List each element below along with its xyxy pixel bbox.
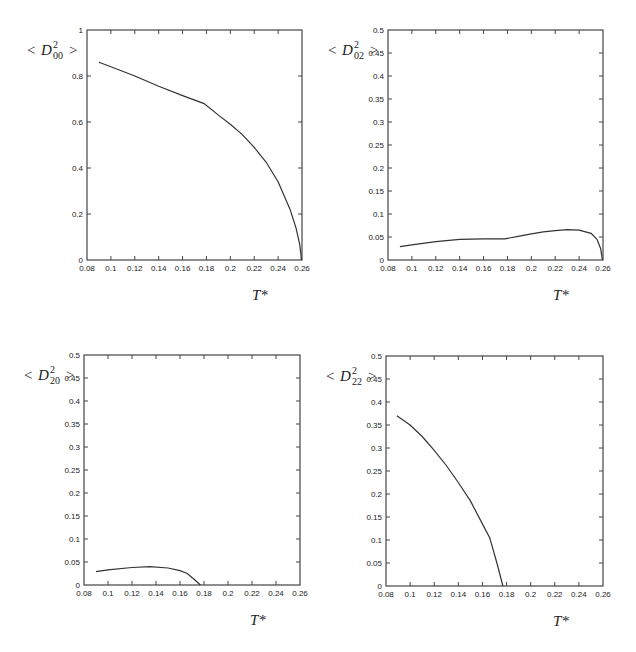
x-tick-label: 0.14 [148,589,164,598]
y-tick-label: 0.4 [69,397,81,406]
y-tick-label: 0.05 [368,233,384,242]
x-tick-label: 0.26 [294,264,310,273]
x-tick-label: 0.26 [292,589,308,598]
y-tick-label: 0.25 [366,467,382,476]
y-tick-label: 0.15 [368,187,384,196]
x-tick-label: 0.08 [76,589,92,598]
svg-text:02: 02 [354,50,364,61]
svg-text:>: > [66,367,74,383]
x-tick-label: 0.24 [270,264,286,273]
y-tick-label: 0 [79,256,84,265]
x-tick-label: 0.18 [199,264,215,273]
y-tick-label: 0.3 [371,444,383,453]
y-tick-label: 0.2 [371,490,383,499]
svg-text:>: > [368,368,376,384]
y-tick-label: 0.3 [69,443,81,452]
x-tick-label: 0.12 [124,589,140,598]
y-tick-label: 0.4 [371,398,383,407]
x-tick-label: 0.24 [571,590,587,599]
y-tick-label: 0.15 [64,512,80,521]
plot-frame [388,30,603,260]
x-tick-label: 0.24 [268,589,284,598]
svg-text:D: D [40,42,52,58]
data-curve [96,567,200,585]
subplot-d20: 0.080.10.120.140.160.180.20.220.240.2600… [24,351,308,628]
y-tick-label: 0.05 [366,559,382,568]
plot-frame [87,30,302,260]
svg-text:2: 2 [53,39,58,50]
y-tick-label: 0.2 [72,210,84,219]
svg-text:20: 20 [50,375,60,386]
figure: 0.080.10.120.140.160.180.20.220.240.2600… [0,0,636,652]
plot-frame [84,355,300,585]
y-tick-label: 0.35 [368,95,384,104]
y-tick-label: 0.25 [64,466,80,475]
x-tick-label: 0.18 [500,264,516,273]
x-tick-label: 0.16 [172,589,188,598]
x-tick-label: 0.14 [451,590,467,599]
y-axis-label: <D220> [24,364,74,386]
svg-text:<: < [27,42,35,58]
svg-text:<: < [24,367,32,383]
x-tick-label: 0.2 [222,589,234,598]
subplot-d00: 0.080.10.120.140.160.180.20.220.240.2600… [27,26,310,303]
x-tick-label: 0.2 [525,590,537,599]
data-curve [397,416,503,586]
x-tick-label: 0.22 [547,590,563,599]
y-tick-label: 0.1 [69,535,81,544]
y-tick-label: 0.5 [371,352,383,361]
y-tick-label: 0.1 [373,210,385,219]
y-tick-label: 0.4 [72,164,84,173]
y-tick-label: 0.05 [64,558,80,567]
y-tick-label: 0.15 [366,513,382,522]
x-tick-label: 0.26 [595,590,611,599]
data-curve [99,62,302,260]
x-tick-label: 0.16 [175,264,191,273]
x-tick-label: 0.2 [526,264,538,273]
x-tick-label: 0.08 [378,590,394,599]
svg-text:22: 22 [352,376,362,387]
y-tick-label: 0 [378,582,383,591]
x-tick-label: 0.22 [244,589,260,598]
x-tick-label: 0.26 [595,264,611,273]
y-axis-label: <D200> [27,39,77,61]
svg-text:2: 2 [352,365,357,376]
x-tick-label: 0.14 [151,264,167,273]
x-tick-label: 0.12 [426,590,442,599]
y-tick-label: 0.2 [373,164,385,173]
data-curve [400,230,603,260]
subplot-d22: 0.080.10.120.140.160.180.20.220.240.2600… [326,352,611,629]
x-tick-label: 0.2 [225,264,237,273]
svg-text:D: D [339,368,351,384]
y-tick-label: 0.3 [373,118,385,127]
x-tick-label: 0.1 [105,264,117,273]
x-tick-label: 0.12 [428,264,444,273]
x-axis-label: T* [553,287,569,303]
svg-text:>: > [370,42,378,58]
y-tick-label: 0.4 [373,72,385,81]
y-axis-label: <D222> [326,365,376,387]
y-tick-label: 0.35 [64,420,80,429]
y-tick-label: 0.35 [366,421,382,430]
y-axis-label: <D202> [328,39,378,61]
y-tick-label: 0 [76,581,81,590]
x-tick-label: 0.12 [127,264,143,273]
y-tick-label: 0.5 [373,26,385,35]
y-tick-label: 0.5 [69,351,81,360]
x-tick-label: 0.1 [405,590,417,599]
y-tick-label: 0.1 [371,536,383,545]
svg-text:00: 00 [53,50,63,61]
svg-text:>: > [69,42,77,58]
x-tick-label: 0.1 [406,264,418,273]
x-axis-label: T* [553,613,569,629]
y-tick-label: 0.6 [72,118,84,127]
y-tick-label: 0.25 [368,141,384,150]
x-tick-label: 0.16 [475,590,491,599]
x-tick-label: 0.08 [79,264,95,273]
svg-text:<: < [328,42,336,58]
x-tick-label: 0.22 [246,264,262,273]
svg-text:<: < [326,368,334,384]
y-tick-label: 0 [380,256,385,265]
y-tick-label: 0.8 [72,72,84,81]
x-tick-label: 0.18 [196,589,212,598]
